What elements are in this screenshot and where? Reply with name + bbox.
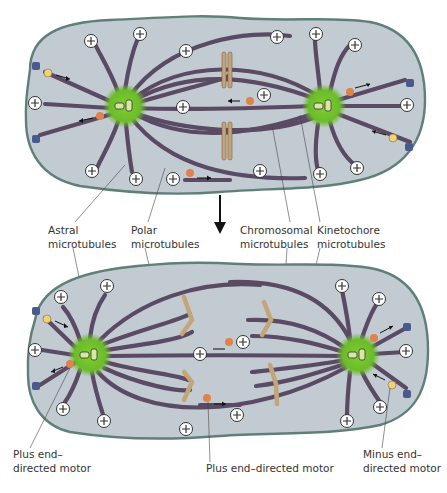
svg-text:directed motor: directed motor [13, 462, 92, 474]
anaphase-cell [28, 263, 428, 439]
centrosome-left-top [103, 84, 147, 128]
label-polar-1: Polar [131, 224, 158, 236]
label-plus-motor-left-1: Plus end– [13, 448, 63, 460]
down-arrow [214, 195, 226, 234]
svg-text:Polar: Polar [131, 224, 158, 236]
label-plus-motor-center: Plus end–directed motor [206, 462, 334, 474]
svg-text:microtubules: microtubules [48, 238, 116, 250]
svg-text:Plus end–: Plus end– [13, 448, 63, 460]
label-kinetochore-1: Kinetochore [317, 224, 380, 236]
metaphase-cell [26, 16, 425, 193]
label-kinetochore-2: microtubules [317, 238, 385, 250]
svg-text:microtubules: microtubules [317, 238, 385, 250]
svg-text:Kinetochore: Kinetochore [317, 224, 380, 236]
centrosome-right-top [302, 84, 346, 128]
centrosome-left-bottom [68, 333, 112, 377]
svg-text:Plus end–directed motor: Plus end–directed motor [206, 462, 334, 474]
svg-text:microtubules: microtubules [240, 238, 308, 250]
label-minus-motor-right-2: directed motor [363, 462, 442, 474]
label-astral-2: microtubules [48, 238, 116, 250]
label-minus-motor-right-1: Minus end– [363, 448, 422, 460]
label-astral-1: Astral [48, 224, 78, 236]
label-chromosomal-2: microtubules [240, 238, 308, 250]
label-chromosomal-1: Chromosomal [240, 224, 313, 236]
label-polar-2: microtubules [131, 238, 199, 250]
svg-text:microtubules: microtubules [131, 238, 199, 250]
labels-lower: Plus end– directed motor Plus end–direct… [13, 448, 442, 474]
svg-text:Chromosomal: Chromosomal [240, 224, 313, 236]
labels-upper: Astral microtubules Polar microtubules C… [48, 224, 385, 250]
svg-text:Minus end–: Minus end– [363, 448, 422, 460]
svg-text:directed motor: directed motor [363, 462, 442, 474]
svg-text:Astral: Astral [48, 224, 78, 236]
label-plus-motor-left-2: directed motor [13, 462, 92, 474]
spindle-diagram: Astral microtubules Polar microtubules C… [0, 0, 447, 493]
